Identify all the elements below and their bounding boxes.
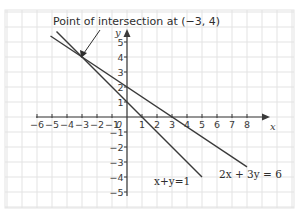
x-tick-label: −6: [30, 119, 44, 130]
y-tick-label: 5: [117, 37, 123, 48]
y-tick-label: −1: [109, 127, 123, 138]
y-tick-label: −5: [109, 187, 123, 198]
y-tick-label: −2: [109, 142, 123, 153]
x-tick-label: 1: [139, 119, 145, 130]
y-tick-label: 4: [117, 52, 123, 63]
y-tick-label: 3: [117, 67, 123, 78]
x-tick-label: −5: [45, 119, 59, 130]
intersection-annotation: Point of intersection at (−3, 4): [53, 15, 220, 28]
y-tick-label: −4: [109, 172, 123, 183]
equation-label-2x-plus-3y: 2x + 3y = 6: [219, 168, 282, 180]
x-tick-label: −4: [60, 119, 74, 130]
x-tick-label: −2: [90, 119, 104, 130]
x-tick-label: 5: [199, 119, 205, 130]
graph-figure: −6−5−4−3−2−101234567854321−1−2−3−4−5 x y…: [0, 0, 305, 222]
x-tick-label: 2: [154, 119, 160, 130]
x-axis-label: x: [270, 121, 276, 132]
x-tick-label: 8: [244, 119, 250, 130]
line-x-plus-y-equals-1: [57, 32, 203, 178]
y-tick-label: −3: [109, 157, 123, 168]
x-tick-label: 3: [169, 119, 175, 130]
x-tick-label: 7: [229, 119, 235, 130]
x-axis-arrow-icon: [262, 114, 270, 121]
plot-lines: [51, 32, 248, 178]
equation-label-x-plus-y: x+y=1: [154, 175, 190, 187]
y-axis-label: y: [114, 27, 121, 38]
y-axis-arrow-icon: [124, 29, 131, 37]
x-tick-label: 6: [214, 119, 220, 130]
x-tick-label: −3: [75, 119, 89, 130]
